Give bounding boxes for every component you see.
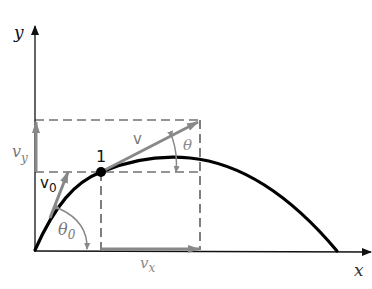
theta0-label-main: θ <box>58 220 68 239</box>
vy-label-sub: y <box>20 151 28 165</box>
point-1-marker <box>96 167 106 177</box>
theta-arc <box>172 137 177 172</box>
theta0-label-sub: 0 <box>68 228 76 242</box>
theta-label: θ <box>183 136 192 154</box>
projectile-diagram: y x 1 vy v0 v vx θ0 θ <box>0 0 372 289</box>
trajectory-curve <box>35 157 337 251</box>
vy-label-main: v <box>12 142 21 161</box>
v0-label-main: v <box>40 174 49 192</box>
x-axis <box>34 251 371 252</box>
v0-label-sub: 0 <box>49 181 57 195</box>
point-1-label: 1 <box>96 147 106 166</box>
vx-label-sub: x <box>148 261 155 275</box>
v-label: v <box>133 130 142 148</box>
vx-label: vx <box>140 254 155 275</box>
theta0-label: θ0 <box>58 220 76 242</box>
y-axis-label: y <box>13 22 24 42</box>
x-axis-label: x <box>354 260 364 280</box>
v0-label: v0 <box>40 174 57 195</box>
vy-label: vy <box>12 142 28 165</box>
